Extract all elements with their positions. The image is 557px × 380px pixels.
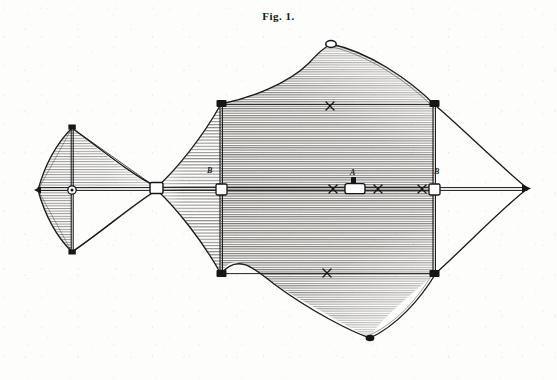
node-coupling xyxy=(150,183,163,194)
node-tail-tip xyxy=(522,184,531,192)
curve-main-upper-tail xyxy=(436,106,527,188)
curve-main-lower-tail xyxy=(436,189,527,273)
node-small-top xyxy=(68,125,75,130)
label-b-right: B xyxy=(434,168,439,176)
sail-panels xyxy=(38,44,434,338)
label-b-left: B xyxy=(207,167,212,175)
node-fore-spar-top xyxy=(217,100,227,107)
node-crest-bottom xyxy=(366,335,375,341)
brace-small-lower xyxy=(72,189,157,252)
node-small-bottom xyxy=(68,250,75,255)
node-fore-spar-bottom xyxy=(217,270,227,277)
panel-main-upper xyxy=(221,44,434,189)
node-fore-spar-cross xyxy=(216,184,227,195)
bridle-block-body xyxy=(345,184,365,194)
node-aft-spar-bottom xyxy=(430,270,440,277)
kite-diagram-svg xyxy=(0,0,557,380)
node-crest-top xyxy=(326,41,336,48)
node-aft-spar-top xyxy=(430,100,440,107)
node-nose-tip xyxy=(34,187,41,194)
figure-plate: Fig. 1. xyxy=(0,0,557,380)
node-small-cross-core xyxy=(71,189,74,192)
bridle-block-lug xyxy=(351,177,356,184)
label-a-center: A xyxy=(350,169,355,177)
panel-fore-lower xyxy=(157,189,221,274)
panel-fore-upper xyxy=(157,104,221,189)
node-aft-spar-cross xyxy=(429,184,440,195)
